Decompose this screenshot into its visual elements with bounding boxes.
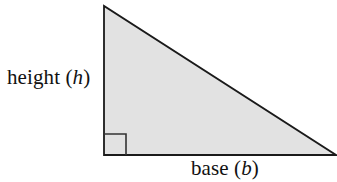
- base-label-prefix: base (: [191, 156, 241, 180]
- height-label: height (h): [7, 67, 90, 88]
- base-label: base (b): [191, 158, 259, 179]
- geometry-figure: height (h) base (b): [0, 0, 337, 182]
- right-triangle-graphic: [0, 0, 337, 182]
- base-variable: b: [241, 156, 252, 180]
- height-variable: h: [73, 65, 84, 89]
- height-label-suffix: ): [83, 65, 90, 89]
- base-label-suffix: ): [252, 156, 259, 180]
- height-label-prefix: height (: [7, 65, 73, 89]
- triangle-shape: [104, 6, 336, 155]
